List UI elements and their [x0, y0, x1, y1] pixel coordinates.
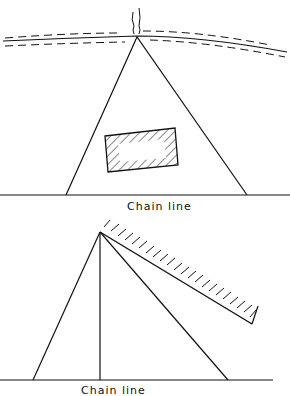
right-offset	[100, 232, 228, 380]
left-offset	[33, 232, 100, 380]
wall-hook	[252, 306, 258, 324]
top-diagram	[0, 8, 290, 195]
survey-diagram	[0, 0, 290, 396]
triangle-offsets	[66, 37, 247, 195]
chain-line-label-bottom: Chain line	[81, 384, 146, 396]
survey-pole-icon	[132, 8, 140, 34]
chain-line-label-top: Chain line	[127, 200, 192, 213]
wall-hatching	[104, 220, 256, 317]
bottom-diagram	[0, 220, 273, 380]
hatched-wall	[100, 232, 252, 324]
